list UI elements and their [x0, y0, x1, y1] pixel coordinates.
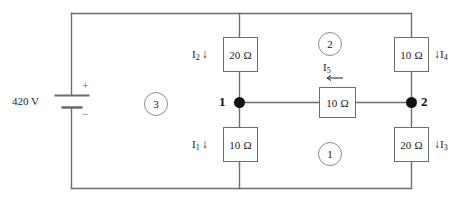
battery-plus-sign: +	[82, 79, 89, 94]
resistor-center: 10 Ω	[319, 87, 356, 118]
resistor-top-middle: 20 Ω	[223, 37, 258, 72]
loop-marker-3: 3	[144, 92, 168, 116]
current-i1-arrow-icon: ↓	[200, 137, 208, 151]
current-label-i5: I5	[323, 62, 331, 75]
resistor-top-right: 10 Ω	[394, 37, 429, 72]
loop-marker-2: 2	[318, 32, 342, 56]
resistor-bottom-middle: 10 Ω	[223, 127, 258, 162]
battery-voltage-label: 420 V	[12, 95, 39, 107]
battery-minus-sign: −	[82, 107, 89, 122]
node-label-2: 2	[421, 94, 428, 110]
current-i5-subscript: 5	[327, 66, 331, 75]
current-label-i2: I2↓	[192, 47, 208, 62]
loop-marker-1: 1	[318, 142, 342, 166]
current-label-i4: ↓I4	[432, 47, 448, 62]
node-label-1: 1	[219, 94, 226, 110]
current-i4-subscript: 4	[444, 53, 448, 62]
current-i3-arrow-icon: ↓	[432, 137, 440, 151]
current-label-i3: ↓I3	[432, 137, 448, 152]
current-label-i1: I1↓	[192, 137, 208, 152]
circuit-wires	[0, 0, 465, 202]
resistor-bottom-right: 20 Ω	[394, 127, 429, 162]
current-i4-arrow-icon: ↓	[432, 47, 440, 61]
circuit-diagram: 420 V + − 20 Ω 10 Ω 10 Ω 20 Ω 10 Ω I2↓ I…	[0, 0, 465, 202]
current-i2-arrow-icon: ↓	[200, 47, 208, 61]
node-dot-2	[406, 97, 417, 108]
current-i3-subscript: 3	[444, 143, 448, 152]
node-dot-1	[234, 97, 245, 108]
